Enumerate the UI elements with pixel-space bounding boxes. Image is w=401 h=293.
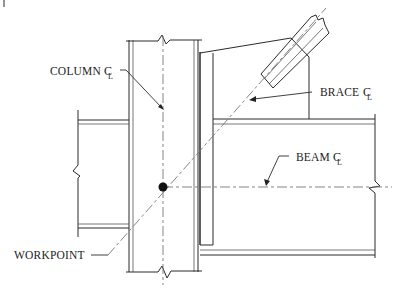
column-top-break xyxy=(126,35,202,44)
centerline-symbol-sub: L xyxy=(337,158,342,167)
workpoint-marker xyxy=(159,183,168,192)
workpoint-label-text: WORKPOINT xyxy=(14,249,85,261)
brace-cl-label: BRACE C L xyxy=(249,85,372,102)
brace-centerline xyxy=(108,8,326,255)
right-beam xyxy=(200,114,380,258)
arrowhead xyxy=(264,179,270,186)
brace xyxy=(261,15,329,88)
centerline-symbol-sub: L xyxy=(367,93,372,102)
arrowhead xyxy=(249,96,256,102)
connection-diagram: COLUMN C L BRACE C L BEAM C L WORKPOINT xyxy=(0,0,401,293)
beam-label-text: BEAM xyxy=(296,151,330,163)
gusset-plate xyxy=(200,38,309,119)
beam-cl-label: BEAM C L xyxy=(264,150,342,186)
left-beam xyxy=(73,110,129,237)
column-bottom-break xyxy=(126,266,202,278)
brace-label-text: BRACE xyxy=(320,86,359,98)
column-label-text: COLUMN xyxy=(50,65,102,77)
column xyxy=(126,35,202,278)
column-cl-label: COLUMN C L xyxy=(50,64,164,110)
centerline-symbol-sub: L xyxy=(108,72,113,81)
workpoint-label: WORKPOINT xyxy=(14,249,108,261)
